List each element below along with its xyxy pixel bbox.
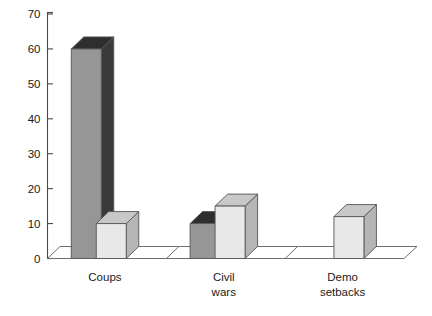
value-axis-tick-label: 30 xyxy=(28,148,41,160)
bar-front-face xyxy=(215,206,245,258)
bar-chart-figure: 010203040506070 CoupsCivilwarsDemosetbac… xyxy=(0,0,432,316)
value-axis-tick-label: 0 xyxy=(34,253,40,265)
bar-series-2 xyxy=(334,205,377,259)
category-axis-label: setbacks xyxy=(320,286,366,298)
bar-front-face xyxy=(334,217,364,259)
category-axis-label: Coups xyxy=(88,271,121,283)
value-axis-tick-label: 50 xyxy=(28,78,41,90)
chart-background xyxy=(0,0,432,316)
chart-canvas: 010203040506070 CoupsCivilwarsDemosetbac… xyxy=(0,0,432,316)
bar-series-2 xyxy=(96,212,138,259)
category-axis-label: wars xyxy=(211,286,237,298)
value-axis-tick-label: 40 xyxy=(28,113,41,125)
value-axis-tick-label: 20 xyxy=(28,183,41,195)
value-axis-tick-label: 10 xyxy=(28,218,41,230)
category-axis-label: Civil xyxy=(213,271,235,283)
bar-front-face xyxy=(96,224,126,259)
category-axis-label: Demo xyxy=(327,271,358,283)
value-axis-tick-label: 70 xyxy=(28,8,41,20)
value-axis-tick-label: 60 xyxy=(28,43,41,55)
bar-series-2 xyxy=(215,194,258,258)
